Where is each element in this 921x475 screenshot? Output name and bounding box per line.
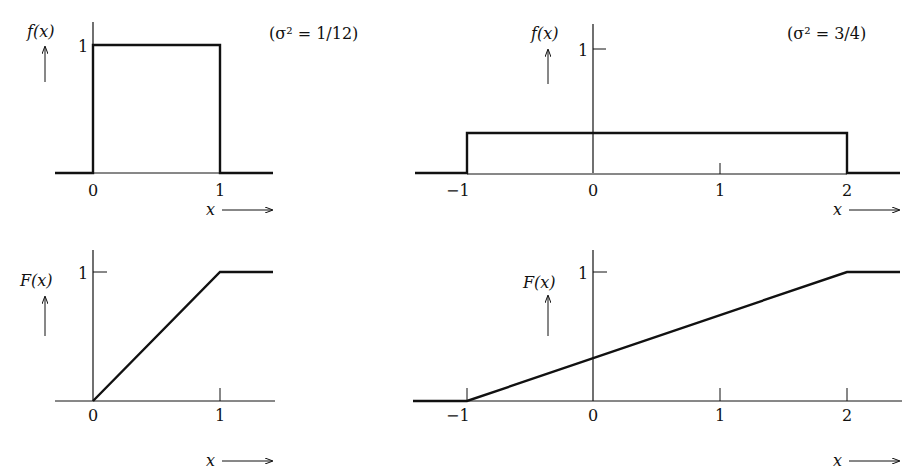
pdf-curve — [415, 133, 900, 173]
y-tick-1: 1 — [578, 264, 588, 283]
x-tick-0: 0 — [588, 406, 598, 425]
pdf-curve — [55, 45, 273, 173]
figure: 1 0 1 f(x) x (σ² = 1/12) 1 −1 0 1 2 f(x)… — [0, 0, 921, 475]
y-axis-label: F(x) — [19, 271, 53, 290]
x-tick-1: 1 — [215, 181, 225, 200]
x-tick-0: 0 — [88, 406, 98, 425]
panel-pdf-neg1-2: 1 −1 0 1 2 f(x) x (σ² = 3/4) — [415, 24, 900, 219]
y-tick-1: 1 — [578, 41, 588, 60]
x-axis-label: x — [206, 451, 215, 470]
x-tick-1: 1 — [215, 406, 225, 425]
x-axis-label: x — [833, 200, 842, 219]
x-tick-2: 2 — [842, 181, 852, 200]
y-tick-1: 1 — [78, 37, 88, 56]
panel-pdf-0-1: 1 0 1 f(x) x (σ² = 1/12) — [26, 22, 358, 219]
y-axis-label: F(x) — [522, 273, 556, 292]
panel-cdf-0-1: 1 0 1 F(x) x — [19, 250, 275, 470]
variance-annotation: (σ² = 1/12) — [269, 24, 358, 43]
cdf-curve — [413, 272, 900, 401]
y-tick-1: 1 — [78, 264, 88, 283]
x-tick-1: 1 — [715, 181, 725, 200]
x-axis-label: x — [206, 200, 215, 219]
x-tick-neg1: −1 — [446, 406, 470, 425]
y-axis-label: f(x) — [530, 24, 558, 43]
panel-cdf-neg1-2: 1 −1 0 1 2 F(x) x — [413, 250, 902, 470]
y-axis-label: f(x) — [26, 22, 54, 41]
x-tick-2: 2 — [842, 406, 852, 425]
cdf-curve — [93, 272, 273, 401]
x-tick-0: 0 — [88, 181, 98, 200]
variance-annotation: (σ² = 3/4) — [787, 24, 866, 43]
x-tick-neg1: −1 — [446, 181, 470, 200]
x-tick-1: 1 — [715, 406, 725, 425]
x-axis-label: x — [833, 451, 842, 470]
x-tick-0: 0 — [588, 181, 598, 200]
